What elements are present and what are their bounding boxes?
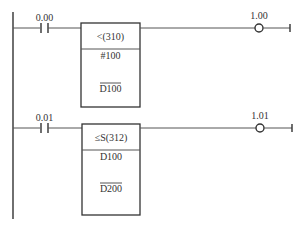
- normally-open-contact-icon[interactable]: [41, 123, 48, 133]
- instruction-mnemonic: <(310): [97, 31, 124, 43]
- instruction-mnemonic: ≤S(312): [95, 132, 128, 144]
- instruction-operand-1: D100: [100, 151, 122, 162]
- ladder-diagram: 0.00 <(310) #100 D100 1.00 0.01: [0, 0, 302, 228]
- output-coil-icon[interactable]: [256, 124, 264, 132]
- output-coil-icon[interactable]: [255, 24, 263, 32]
- coil-address-label: 1.01: [251, 110, 269, 121]
- instruction-block[interactable]: ≤S(312) D100 D200: [82, 124, 140, 215]
- instruction-operand-2: D100: [99, 83, 121, 94]
- instruction-operand-1: #100: [101, 50, 121, 61]
- contact-address-label: 0.01: [36, 112, 54, 123]
- coil-address-label: 1.00: [250, 10, 268, 21]
- instruction-block[interactable]: <(310) #100 D100: [81, 23, 140, 107]
- normally-open-contact-icon[interactable]: [41, 23, 48, 33]
- contact-address-label: 0.00: [36, 12, 54, 23]
- instruction-operand-2: D200: [100, 183, 122, 194]
- rung-1: 0.00 <(310) #100 D100 1.00: [13, 10, 290, 107]
- rung-2: 0.01 ≤S(312) D100 D200 1.01: [13, 110, 292, 215]
